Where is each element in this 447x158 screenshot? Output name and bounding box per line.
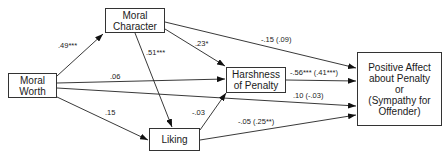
node-label: Harshness of Penalty	[232, 69, 280, 91]
edge-label-liking-harshness: -.03	[192, 108, 205, 117]
edge-label-mw-mc: .49***	[58, 41, 77, 50]
edge-mw-harshness	[57, 79, 225, 83]
node-label: Moral Worth	[19, 75, 46, 97]
edge-label-mw-liking: .15	[105, 108, 115, 117]
edge-mc-affect	[165, 22, 356, 68]
path-diagram: Moral Worth Moral Character Harshness of…	[0, 0, 447, 158]
node-moral-worth: Moral Worth	[8, 73, 57, 98]
edge-liking-affect	[200, 115, 356, 140]
edge-label-harshness-affect: -.56*** (.41***)	[290, 68, 338, 77]
node-positive-affect: Positive Affect about Penalty or (Sympat…	[357, 52, 442, 126]
node-label: Liking	[161, 134, 187, 145]
node-moral-character: Moral Character	[105, 8, 165, 33]
node-harshness-of-penalty: Harshness of Penalty	[226, 67, 286, 93]
edge-label-mw-affect: .10 (-.03)	[293, 91, 323, 100]
edge-harshness-affect	[286, 80, 356, 81]
node-label: Positive Affect about Penalty or (Sympat…	[368, 62, 431, 117]
node-liking: Liking	[149, 128, 200, 151]
edge-mw-liking	[57, 97, 148, 140]
node-label: Moral Character	[113, 10, 157, 32]
edge-label-mc-harshness: .23*	[195, 39, 208, 48]
edge-label-mw-harshness: .06	[110, 72, 120, 81]
edge-label-mc-affect: -.15 (.09)	[261, 35, 291, 44]
edge-label-liking-affect: -.05 (.25**)	[238, 117, 274, 126]
edge-label-mc-liking: .51***	[146, 48, 165, 57]
